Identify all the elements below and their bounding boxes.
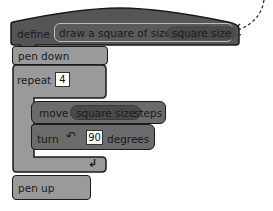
turn-degrees-input[interactable]: 90 xyxy=(86,130,103,145)
repeat-count-input[interactable]: 4 xyxy=(55,72,70,87)
turn-label: turn xyxy=(37,134,59,145)
loop-arrow-icon: ↲ xyxy=(88,158,97,169)
pen-up-label: pen up xyxy=(18,183,54,194)
define-block[interactable]: define draw a square of size square size xyxy=(10,6,242,48)
degrees-label: degrees xyxy=(107,134,149,145)
pen-down-block[interactable]: pen down xyxy=(12,46,108,65)
param-square-size[interactable]: square size xyxy=(70,105,141,120)
repeat-label: repeat xyxy=(17,75,51,86)
custom-block-label: draw a square of size xyxy=(59,28,171,39)
turn-block[interactable]: turn ↶ 90 degrees xyxy=(31,124,155,150)
move-label: move xyxy=(39,108,68,119)
pen-up-block[interactable]: pen up xyxy=(12,175,91,200)
rotate-left-icon: ↶ xyxy=(66,130,76,142)
steps-label: steps xyxy=(134,108,162,119)
parameter-square-size[interactable]: square size xyxy=(167,26,236,40)
pen-down-label: pen down xyxy=(18,51,69,62)
define-keyword: define xyxy=(17,29,50,40)
move-block[interactable]: move square size steps xyxy=(31,101,166,124)
custom-block-prototype[interactable]: draw a square of size square size xyxy=(54,23,233,42)
